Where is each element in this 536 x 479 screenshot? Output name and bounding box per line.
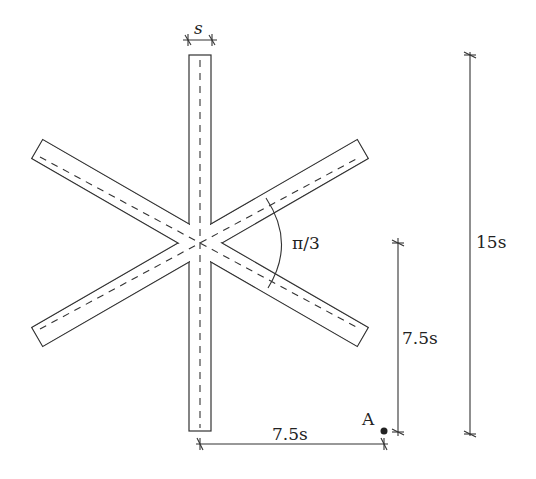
point-A-label: A	[361, 409, 375, 429]
angle-label: π/3	[292, 233, 320, 253]
star-diagram: s π/3 15s 7.5s 7.5s A	[0, 0, 536, 479]
point-A-marker	[381, 428, 388, 435]
width-label: s	[194, 18, 203, 38]
total-height-label: 15s	[476, 232, 506, 252]
total-height-dimension	[464, 52, 476, 437]
horizontal-label: 7.5s	[272, 424, 308, 444]
half-height-label: 7.5s	[402, 328, 438, 348]
